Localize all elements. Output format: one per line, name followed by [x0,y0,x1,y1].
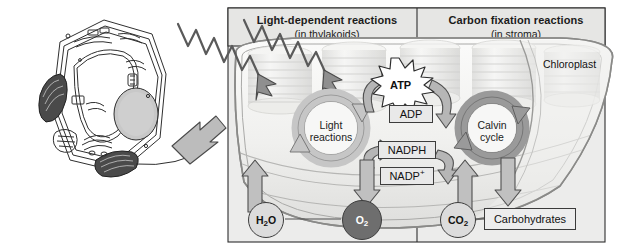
figure-canvas: Light-dependent reactions (in thylakoids… [0,0,625,251]
carbohydrates-label: Carbohydrates [494,213,566,225]
water-molecule: H2O [248,202,284,238]
oxygen-molecule: O2 [342,200,382,240]
carbon-dioxide-label: CO2 [448,214,468,226]
carbon-dioxide-molecule: CO2 [440,202,476,238]
oxygen-label: O2 [356,214,369,226]
water-label: H2O [256,214,276,226]
carbohydrates-box: Carbohydrates [484,208,576,230]
